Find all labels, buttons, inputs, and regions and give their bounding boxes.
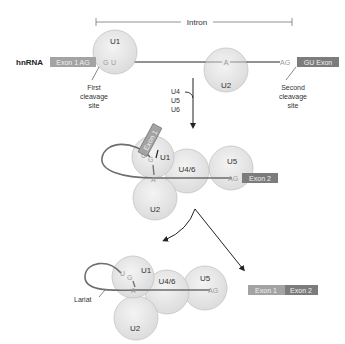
- stage-3-lariat: U G A U1 U4/6 U5 U2 AG Lariat Exon 1 Exo…: [74, 256, 318, 340]
- u5-label: U5: [200, 274, 211, 283]
- incoming-u6: U6: [171, 106, 180, 113]
- stage-1-hnrna: Intron U1 G U A U2 hnRNA Exon 1 AG AG GU…: [16, 16, 339, 126]
- nucleotide-u: U: [111, 59, 116, 66]
- nucleotide-ag: AG: [280, 59, 290, 66]
- incoming-u4: U4: [171, 88, 180, 95]
- stage-2-spliceosome: U G A Exon 1 U1 U4/6 U5 U2 AG Exon 2: [102, 124, 278, 269]
- lariat-label: Lariat: [74, 296, 92, 303]
- branch-point-a: A: [151, 176, 156, 183]
- first-cleavage-line1: First: [87, 84, 101, 91]
- u1-label: U1: [110, 37, 121, 46]
- product-exon-1-label: Exon 1: [255, 287, 277, 294]
- second-cleavage-line2: cleavage: [279, 93, 307, 101]
- exon-2-label: Exon 2: [249, 175, 271, 182]
- second-cleavage-line3: site: [288, 102, 299, 109]
- exon-2-label: GU Exon: [304, 59, 333, 66]
- u1-label: U1: [160, 153, 171, 162]
- intron-bracket: Intron: [96, 16, 292, 27]
- intron-label: Intron: [187, 18, 207, 27]
- nucleotide-u: U: [120, 270, 125, 277]
- u5-snrnp: [183, 266, 227, 310]
- nucleotide-g: G: [148, 156, 153, 163]
- arrow-to-product: [195, 209, 243, 269]
- exon-1-label: Exon 1 AG: [56, 59, 89, 66]
- splicing-diagram: Intron U1 G U A U2 hnRNA Exon 1 AG AG GU…: [0, 0, 345, 344]
- u1-label: U1: [141, 266, 152, 275]
- second-cleavage-line1: Second: [281, 84, 305, 91]
- u4-6-label: U4/6: [159, 277, 176, 286]
- nucleotide-ag: AG: [228, 175, 238, 182]
- hnrna-label: hnRNA: [16, 58, 43, 67]
- nucleotide-g: G: [103, 59, 108, 66]
- branch-point-a: A: [224, 59, 229, 66]
- u5-snrnp: [209, 146, 253, 190]
- u4-6-label: U4/6: [179, 165, 196, 174]
- nucleotide-g: G: [127, 274, 132, 281]
- u2-label: U2: [150, 205, 161, 214]
- u2-label: U2: [221, 81, 232, 90]
- incoming-u5: U5: [171, 97, 180, 104]
- spliced-exons: Exon 1 Exon 2: [248, 285, 318, 295]
- nucleotide-ag: AG: [208, 287, 218, 294]
- product-exon-2-label: Exon 2: [290, 287, 312, 294]
- branch-point-a: A: [131, 287, 136, 294]
- first-cleavage-line3: site: [89, 102, 100, 109]
- u2-label: U2: [130, 324, 141, 333]
- u5-label: U5: [227, 157, 238, 166]
- first-cleavage-line2: cleavage: [80, 93, 108, 101]
- u2-snrnp: [114, 296, 158, 340]
